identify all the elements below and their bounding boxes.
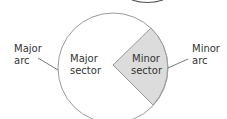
minor-sector-label-line2: sector: [131, 65, 163, 76]
circle-sector-diagram: Major arc Minor arc Major sector Minor s…: [0, 0, 227, 119]
major-arc-leader: [38, 58, 58, 70]
minor-sector-label-line1: Minor: [132, 53, 161, 64]
minor-arc-leader: [168, 59, 188, 68]
partial-top-figure: [132, 0, 163, 3]
major-sector-label-line2: sector: [70, 65, 102, 76]
major-arc-label-line2: arc: [14, 55, 30, 66]
minor-arc-label-line2: arc: [192, 55, 208, 66]
major-arc-label-line1: Major: [14, 43, 43, 54]
major-sector-label-line1: Major: [70, 53, 99, 64]
minor-arc-label-line1: Minor: [192, 43, 221, 54]
